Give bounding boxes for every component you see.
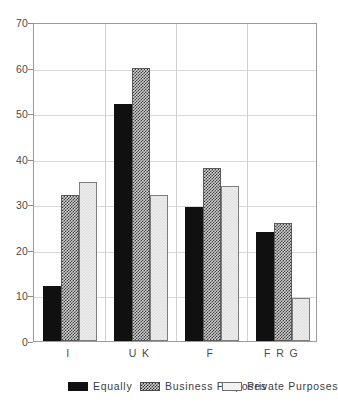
group-divider bbox=[105, 24, 106, 341]
legend-swatch-icon bbox=[140, 382, 160, 391]
bar bbox=[43, 286, 61, 341]
x-tick-label: U K bbox=[104, 347, 175, 359]
x-tick-label: I bbox=[33, 347, 104, 359]
bar bbox=[292, 298, 310, 341]
gridline bbox=[34, 70, 316, 71]
y-tick-label: 30 bbox=[4, 200, 28, 210]
bar bbox=[150, 195, 168, 341]
group-divider bbox=[247, 24, 248, 341]
y-tick-label: 40 bbox=[4, 155, 28, 165]
bar bbox=[221, 186, 239, 341]
y-tick-mark bbox=[28, 342, 33, 343]
legend-swatch-icon bbox=[222, 382, 242, 391]
plot-area bbox=[33, 23, 317, 342]
y-tick-label: 70 bbox=[4, 18, 28, 28]
legend-swatch-icon bbox=[68, 382, 88, 391]
bar bbox=[185, 207, 203, 341]
gridline bbox=[34, 115, 316, 116]
x-tick-label: F bbox=[175, 347, 246, 359]
y-tick-label: 50 bbox=[4, 109, 28, 119]
legend-label: Equally bbox=[93, 381, 132, 392]
bar bbox=[256, 232, 274, 341]
legend-label: Private Purposes bbox=[247, 381, 338, 392]
y-tick-label: 20 bbox=[4, 246, 28, 256]
chart-legend: EquallyBusiness PurposesPrivate Purposes bbox=[0, 379, 330, 395]
gridline bbox=[34, 161, 316, 162]
bar bbox=[203, 168, 221, 341]
bar bbox=[274, 223, 292, 341]
group-divider bbox=[176, 24, 177, 341]
x-tick-label: F R G bbox=[246, 347, 317, 359]
bar bbox=[79, 182, 97, 342]
legend-item[interactable]: Equally bbox=[68, 379, 132, 393]
y-tick-label: 0 bbox=[4, 337, 28, 347]
y-tick-label: 10 bbox=[4, 291, 28, 301]
bar bbox=[114, 104, 132, 341]
legend-item[interactable]: Private Purposes bbox=[222, 379, 338, 393]
bar bbox=[61, 195, 79, 341]
bar bbox=[132, 68, 150, 341]
y-tick-label: 60 bbox=[4, 64, 28, 74]
y-axis: 010203040506070 bbox=[0, 0, 28, 405]
